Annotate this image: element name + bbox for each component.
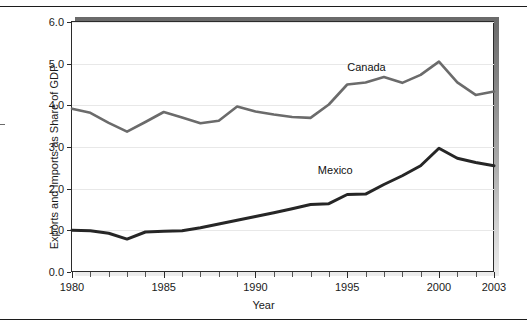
series-line-canada xyxy=(72,62,494,132)
y-axis-tick-mark xyxy=(67,230,71,231)
x-axis-tick-mark xyxy=(384,272,385,277)
x-axis-tick-mark xyxy=(311,272,312,277)
x-axis-tick-mark xyxy=(164,272,165,278)
x-axis-tick-label: 1990 xyxy=(225,281,285,293)
y-axis-title-wrap: Exports and Imports as Share of GDP xyxy=(22,20,36,272)
x-axis-title: Year xyxy=(0,299,527,311)
y-axis-tick-mark xyxy=(67,189,71,190)
x-axis-tick-mark xyxy=(219,272,220,277)
series-line-mexico xyxy=(72,148,494,239)
x-axis-tick-mark xyxy=(476,272,477,277)
x-axis-tick-mark xyxy=(72,272,73,278)
x-axis-tick-mark xyxy=(127,272,128,277)
x-axis-tick-label: 1995 xyxy=(317,281,377,293)
y-axis-tick-mark xyxy=(67,272,71,273)
x-axis-tick-mark xyxy=(145,272,146,277)
x-axis-tick-mark xyxy=(274,272,275,277)
x-axis-tick-mark xyxy=(366,272,367,277)
x-axis-tick-mark xyxy=(255,272,256,278)
x-axis-tick-mark xyxy=(292,272,293,277)
x-axis-tick-label: 1980 xyxy=(42,281,102,293)
x-axis-tick-mark xyxy=(90,272,91,277)
x-axis-tick-label: 2000 xyxy=(409,281,469,293)
x-axis-tick-label: 1985 xyxy=(134,281,194,293)
x-axis-tick-mark xyxy=(329,272,330,277)
page-rule-top xyxy=(0,6,527,7)
series-lines-svg xyxy=(72,22,494,272)
x-axis-tick-mark xyxy=(347,272,348,278)
x-axis-tick-mark xyxy=(200,272,201,277)
figure-container: 0.01.02.03.04.05.06.0 Exports and Import… xyxy=(0,0,527,328)
series-annotation-canada: Canada xyxy=(347,61,386,73)
x-axis-tick-mark xyxy=(182,272,183,277)
x-axis-tick-mark xyxy=(109,272,110,277)
x-axis-tick-mark xyxy=(402,272,403,277)
series-annotation-mexico: Mexico xyxy=(318,164,353,176)
y-axis-tick-mark xyxy=(67,64,71,65)
y-axis-tick-mark xyxy=(67,22,71,23)
x-axis-tick-mark xyxy=(494,272,495,278)
x-axis-tick-mark xyxy=(237,272,238,277)
y-axis-tick-mark xyxy=(67,105,71,106)
x-axis-tick-mark xyxy=(421,272,422,277)
y-axis-title: Exports and Imports as Share of GDP xyxy=(48,47,60,267)
x-axis-tick-mark xyxy=(439,272,440,278)
plot-area xyxy=(72,22,494,272)
y-axis-tick-mark xyxy=(67,147,71,148)
page-rule-bottom xyxy=(0,319,527,320)
x-axis-tick-label: 2003 xyxy=(464,281,524,293)
x-axis-tick-mark xyxy=(457,272,458,277)
